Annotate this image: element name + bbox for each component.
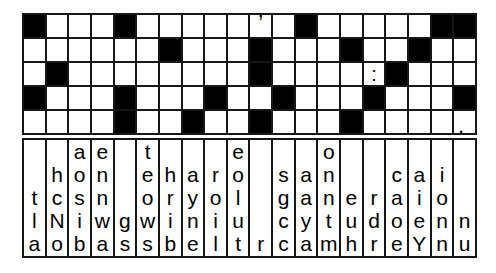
- grid-cell-empty: [273, 111, 294, 133]
- fallen-letter: n: [92, 163, 113, 186]
- grid-cell-empty: [137, 87, 158, 109]
- fallen-letter: m: [318, 233, 339, 256]
- grid-cell-empty: [341, 63, 362, 85]
- fallen-letter: e: [92, 140, 113, 163]
- grid-cell-empty: [454, 39, 475, 61]
- fallen-letter: a: [296, 186, 317, 209]
- fallen-letter: r: [364, 233, 385, 256]
- fallen-letter: r: [250, 233, 271, 256]
- fallen-letter: d: [364, 210, 385, 233]
- letter-column: euh: [341, 140, 362, 256]
- grid-cell-black: [115, 111, 136, 133]
- fallen-letter: n: [92, 186, 113, 209]
- grid-cell-empty: [115, 39, 136, 61]
- fallen-letter: b: [69, 233, 90, 256]
- fallen-letter: r: [364, 186, 385, 209]
- grid-cell-empty: [47, 111, 68, 133]
- grid-cell-black: [454, 87, 475, 109]
- fallen-letter: s: [273, 163, 294, 186]
- fallen-letter: w: [137, 210, 158, 233]
- grid-cell-empty: [296, 111, 317, 133]
- fallen-letter: h: [341, 233, 362, 256]
- fallen-letter: e: [183, 233, 204, 256]
- fallen-letter: o: [205, 186, 226, 209]
- fallen-letter: a: [24, 233, 45, 256]
- grid-cell-black: [409, 39, 430, 61]
- grid-cell-empty: [386, 39, 407, 61]
- fallen-letter: t: [318, 210, 339, 233]
- grid-cell-empty: [92, 39, 113, 61]
- fallen-letter: e: [341, 186, 362, 209]
- fallen-letter: o: [318, 140, 339, 163]
- fallen-letter: t: [228, 233, 249, 256]
- fallen-letter: a: [386, 186, 407, 209]
- grid-cell-empty: [364, 39, 385, 61]
- letter-column: tla: [24, 140, 45, 256]
- fallen-letter: n: [183, 210, 204, 233]
- fallen-letter: a: [409, 163, 430, 186]
- grid-cell-empty: [205, 39, 226, 61]
- grid-cell-empty: [183, 87, 204, 109]
- grid-cell-apostrophe: ’: [250, 15, 271, 37]
- grid-cell-black: [386, 63, 407, 85]
- grid-cell-empty: [386, 87, 407, 109]
- fallen-letter: o: [69, 163, 90, 186]
- grid-cell-empty: [69, 87, 90, 109]
- letter-column: aosib: [69, 140, 90, 256]
- letter-column: eolut: [228, 140, 249, 256]
- grid-cell-empty: [47, 87, 68, 109]
- fallen-letter: u: [228, 210, 249, 233]
- grid-cell-empty: [115, 63, 136, 85]
- fallen-letter: t: [24, 186, 45, 209]
- grid-cell-black: [250, 63, 271, 85]
- fallen-letter: g: [115, 210, 136, 233]
- letter-column: caoe: [386, 140, 407, 256]
- grid-cell-empty: [47, 15, 68, 37]
- fallen-letter: a: [183, 163, 204, 186]
- grid-cell-black: [160, 39, 181, 61]
- fallen-letter: n: [432, 210, 453, 233]
- grid-cell-empty: [409, 15, 430, 37]
- grid-cell-empty: [92, 111, 113, 133]
- fallen-letter: o: [386, 210, 407, 233]
- grid-cell-empty: [92, 87, 113, 109]
- letter-column: roil: [205, 140, 226, 256]
- grid-cell-empty: [183, 39, 204, 61]
- letter-column: hrib: [160, 140, 181, 256]
- grid-cell-black: [454, 15, 475, 37]
- grid-cell-black: [115, 87, 136, 109]
- grid-cell-empty: [432, 39, 453, 61]
- grid-cell-black: [115, 15, 136, 37]
- fallen-letter: e: [409, 210, 430, 233]
- grid-cell-empty: [432, 63, 453, 85]
- grid-cell-empty: [92, 63, 113, 85]
- fallen-letter: i: [160, 210, 181, 233]
- fallen-letter: e: [228, 140, 249, 163]
- fallen-letter: o: [47, 233, 68, 256]
- grid-cell-empty: [205, 15, 226, 37]
- letter-column: ayne: [183, 140, 204, 256]
- grid-cell-empty: [160, 111, 181, 133]
- fallen-letter: i: [409, 186, 430, 209]
- grid-cell-empty: [137, 15, 158, 37]
- grid-cell-empty: [205, 111, 226, 133]
- grid-cell-empty: [386, 15, 407, 37]
- fallen-letter: o: [228, 163, 249, 186]
- fallen-letter: n: [432, 233, 453, 256]
- fallen-letter: h: [47, 163, 68, 186]
- fallen-letter: e: [137, 163, 158, 186]
- grid-cell-empty: [24, 63, 45, 85]
- letter-column: r: [250, 140, 271, 256]
- grid-cell-black: [183, 111, 204, 133]
- grid-cell-empty: [69, 111, 90, 133]
- grid-cell-empty: [24, 39, 45, 61]
- fallen-letter: c: [47, 186, 68, 209]
- grid-cell-black: [250, 39, 271, 61]
- grid-cell-empty: [273, 15, 294, 37]
- letter-column: onntm: [318, 140, 339, 256]
- grid-cell-black: [273, 87, 294, 109]
- grid-cell-black: [24, 87, 45, 109]
- grid-cell-empty: [409, 87, 430, 109]
- fallen-letter: c: [273, 233, 294, 256]
- fallen-letter: o: [137, 186, 158, 209]
